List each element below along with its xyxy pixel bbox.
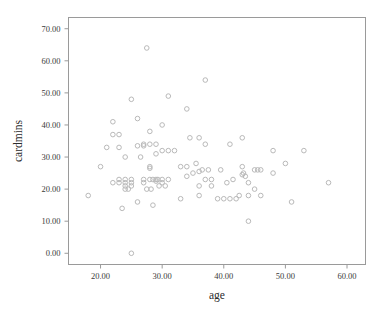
y-tick-label: 0.00	[46, 248, 61, 258]
scatter-plot-figure: 20.0030.0040.0050.0060.00 0.0010.0020.00…	[0, 0, 389, 316]
y-tick-label: 40.00	[41, 120, 60, 130]
y-tick-label: 20.00	[41, 184, 60, 194]
x-tick-label: 40.00	[214, 271, 233, 281]
y-tick-label: 70.00	[41, 24, 60, 34]
x-tick-label: 30.00	[153, 271, 172, 281]
y-tick-label: 50.00	[41, 88, 60, 98]
plot-canvas: 20.0030.0040.0050.0060.00 0.0010.0020.00…	[0, 0, 389, 316]
x-axis-title: age	[209, 289, 225, 302]
y-tick-label: 10.00	[41, 216, 60, 226]
x-tick-label: 50.00	[276, 271, 295, 281]
plot-frame-border	[69, 18, 366, 265]
x-tick-label: 60.00	[337, 271, 356, 281]
y-axis-title: cardmins	[12, 119, 24, 162]
x-tick-label: 20.00	[91, 271, 110, 281]
y-tick-label: 30.00	[41, 152, 60, 162]
y-tick-label: 60.00	[41, 56, 60, 66]
